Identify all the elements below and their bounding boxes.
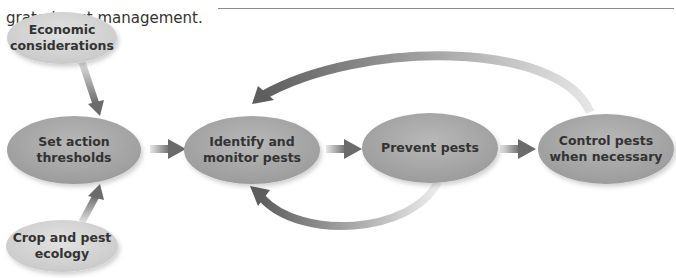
arrow-thresholds-to-identify bbox=[150, 139, 186, 159]
arrow-identify-to-prevent bbox=[326, 139, 362, 159]
node-thresholds: Set actionthresholds bbox=[7, 116, 141, 184]
node-prevent: Prevent pests bbox=[362, 113, 498, 183]
node-control: Control pestswhen necessary bbox=[538, 114, 674, 184]
node-crop: Crop and pestecology bbox=[6, 220, 118, 272]
arrow-economic-to-thresholds bbox=[82, 62, 104, 116]
node-identify: Identify andmonitor pests bbox=[184, 116, 320, 184]
arrow-prevent-to-control bbox=[500, 139, 536, 159]
arrow-crop-to-thresholds bbox=[82, 184, 104, 222]
node-economic: Economicconsiderations bbox=[7, 12, 117, 64]
feedback-arrow-bottom bbox=[250, 182, 438, 226]
feedback-arrow-top bbox=[252, 56, 590, 112]
